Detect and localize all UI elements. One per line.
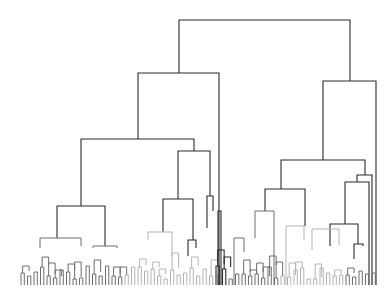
- dendrogram-link: [312, 229, 339, 250]
- dendrogram-link: [94, 260, 101, 274]
- dendrogram-link: [353, 277, 356, 285]
- dendrogram-link: [73, 279, 76, 285]
- dendrogram-link: [55, 270, 62, 278]
- leaf-labels-illegible: [0, 290, 392, 304]
- dendrogram-link: [81, 139, 194, 206]
- dendrogram-link: [315, 264, 322, 279]
- dendrogram-link: [345, 182, 369, 285]
- dendrogram-link: [275, 278, 278, 285]
- dendrogram-link: [99, 276, 102, 285]
- dendrogram-link: [372, 273, 375, 285]
- dendrogram-link: [177, 275, 180, 285]
- dendrogram-link: [151, 269, 154, 285]
- dendrogram-link: [49, 263, 56, 276]
- dendrogram-link: [106, 266, 109, 285]
- dendrogram-link: [203, 269, 206, 285]
- dendrogram-link: [153, 262, 160, 269]
- dendrogram-tree: [21, 20, 376, 285]
- dendrogram-link: [80, 278, 83, 285]
- dendrogram-link: [281, 276, 284, 285]
- dendrogram-link: [178, 151, 210, 199]
- dendrogram-link: [211, 260, 218, 276]
- dendrogram-link: [114, 267, 121, 276]
- dendrogram-link: [172, 253, 179, 270]
- dendrogram-link: [28, 276, 31, 285]
- dendrogram-link: [67, 272, 70, 285]
- dendrogram-link: [357, 175, 372, 285]
- dendrogram-link: [229, 279, 232, 285]
- dendrogram-link: [236, 274, 239, 285]
- dendrogram-link: [42, 257, 49, 267]
- dendrogram-link: [301, 268, 304, 285]
- dendrogram-link: [188, 240, 196, 256]
- dendrogram-link: [263, 267, 270, 278]
- dendrogram-link: [41, 267, 44, 285]
- dendrogram-link: [346, 275, 349, 285]
- dendrogram-link: [125, 275, 128, 285]
- dendrogram-link: [281, 160, 365, 189]
- dendrogram-link: [164, 279, 167, 285]
- dendrogram-link: [197, 276, 200, 285]
- dendrogram-link: [171, 270, 174, 285]
- dendrogram-link: [270, 256, 277, 267]
- dendrogram-link: [323, 81, 376, 285]
- dendrogram-link: [242, 274, 245, 285]
- dendrogram-link: [47, 276, 50, 285]
- dendrogram-link: [145, 271, 148, 285]
- dendrogram-link: [68, 264, 75, 272]
- dendrogram-link: [223, 269, 226, 285]
- dendrogram-link: [40, 238, 81, 248]
- dendrogram-link: [138, 267, 141, 285]
- dendrogram-link: [354, 244, 363, 259]
- dendrogram-link: [327, 273, 330, 285]
- dendrogram-link: [119, 277, 122, 285]
- dendrogram-link: [148, 232, 172, 256]
- dendrogram-link: [179, 20, 350, 81]
- dendrogram-link: [249, 276, 252, 285]
- dendrogram-link: [21, 273, 24, 285]
- dendrogram-link: [333, 276, 336, 285]
- dendrogram-link: [184, 273, 187, 285]
- dendrogram-link: [112, 276, 115, 285]
- dendrogram-link: [140, 259, 147, 267]
- dendrogram-link: [265, 189, 305, 226]
- dendrogram-link: [257, 263, 264, 274]
- dendrogram-link: [359, 271, 362, 285]
- dendrogram-link: [159, 269, 166, 276]
- dendrogram-link: [250, 270, 257, 276]
- dendrogram-link: [163, 199, 193, 240]
- dendrogram-link: [255, 274, 258, 285]
- dendrogram-link: [54, 278, 57, 285]
- dendrogram-link: [86, 266, 89, 285]
- dendrogram-link: [93, 274, 96, 285]
- dendrogram-link: [224, 257, 231, 269]
- dendrogram-link: [262, 278, 265, 285]
- dendrogram-link: [296, 262, 303, 270]
- dendrogram-link: [207, 196, 213, 228]
- dendrogram-link: [93, 246, 117, 248]
- dendrogram-link: [288, 277, 291, 285]
- dendrogram-chart: [0, 0, 392, 304]
- dendrogram-link: [340, 275, 343, 285]
- dendrogram-link: [244, 260, 251, 274]
- dendrogram-link: [75, 262, 82, 279]
- dendrogram-link: [314, 279, 317, 285]
- dendrogram-link: [34, 272, 37, 285]
- dendrogram-link: [330, 224, 358, 246]
- dendrogram-link: [23, 266, 30, 273]
- dendrogram-link: [348, 268, 355, 275]
- dendrogram-link: [190, 268, 193, 285]
- dendrogram-link: [158, 276, 161, 285]
- dendrogram-link: [210, 276, 213, 285]
- dendrogram-link: [366, 274, 369, 285]
- dendrogram-link: [307, 279, 310, 285]
- dendrogram-link: [132, 267, 135, 285]
- dendrogram-link: [192, 257, 199, 268]
